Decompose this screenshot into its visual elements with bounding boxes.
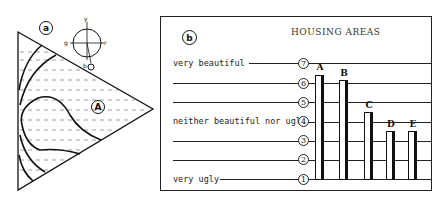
scale-4: 4 [298,116,309,127]
bar-c [364,112,373,180]
compass-top-label: y [84,15,88,22]
chart-title: HOUSING AREAS [291,27,380,37]
area-a-label: A [91,100,105,114]
bar-b [339,80,348,180]
bar-d [386,131,395,180]
compass-right-label: r [104,39,106,46]
gridline-1 [219,179,431,180]
bar-a [315,75,324,180]
bar-label-e: E [407,119,419,129]
triangle-contour-diagram [0,0,160,204]
scale-3: 3 [298,135,309,146]
label-very-beautiful: very beautiful [173,58,246,68]
scale-7: 7 [298,58,309,69]
panel-a-label: a [39,21,53,35]
bar-label-c: C [363,100,375,110]
scale-2: 2 [298,154,309,165]
compass-bottom-label: b [83,62,87,69]
scale-5: 5 [298,97,309,108]
bar-label-d: D [385,119,397,129]
panel-b-chart: b HOUSING AREAS very beautiful neither b… [160,16,432,191]
gridline-7 [249,63,431,64]
bar-label-a: A [314,62,326,72]
panel-a-diagram: a A y g r b [0,0,160,204]
panel-b-label: b [182,30,197,45]
bar-label-b: B [338,68,350,78]
label-very-ugly: very ugly [173,174,220,184]
label-neutral: neither beautiful nor ugly [173,116,307,126]
compass-left-label: g [64,39,68,46]
scale-1: 1 [298,174,309,185]
scale-6: 6 [298,78,309,89]
bar-e [408,131,417,180]
